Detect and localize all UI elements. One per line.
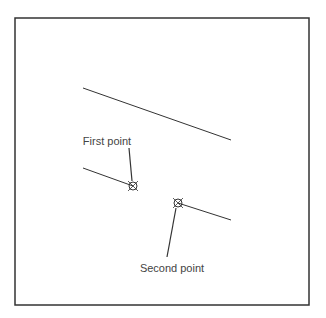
first-point-marker [128, 181, 138, 191]
second-point-label: Second point [140, 262, 204, 274]
second-point-leader [167, 208, 176, 257]
lower-left-line [83, 168, 133, 186]
upper-line [83, 88, 231, 140]
first-point-leader [129, 148, 132, 181]
second-point-marker [173, 198, 183, 208]
lower-right-line [178, 203, 231, 220]
first-point-label: First point [83, 135, 131, 147]
